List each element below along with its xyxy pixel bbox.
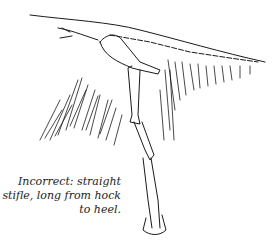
caption-line-2: stifle, long from hock: [1, 189, 121, 203]
hair-left: [40, 78, 122, 145]
caption-line-3: to heel.: [1, 203, 121, 217]
cannon-bone: [143, 158, 160, 228]
pelvis-bone: [100, 35, 160, 74]
caption-line-1: Incorrect: straight: [1, 175, 121, 189]
tibia-bone: [134, 122, 154, 160]
femur-bone: [128, 66, 140, 124]
hair-right: [160, 60, 250, 140]
topline: [30, 15, 265, 62]
hoof: [143, 215, 166, 235]
figure-caption: Incorrect: straight stifle, long from ho…: [1, 175, 121, 217]
